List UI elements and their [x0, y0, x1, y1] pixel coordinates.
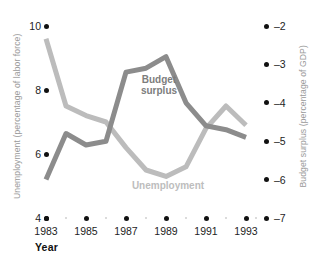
- y-axis-right-tick-label: –3: [274, 59, 296, 70]
- x-axis-tick-dot: [244, 216, 249, 221]
- x-axis-tick-label: 1983: [26, 226, 66, 237]
- series-annotation-unemployment: Unemployment: [128, 180, 208, 191]
- series-line-unemployment: [46, 39, 246, 177]
- x-axis-caption: Year: [35, 241, 58, 253]
- y-axis-right-tick-label: –6: [274, 175, 296, 186]
- y-axis-right-tick-label: –5: [274, 136, 296, 147]
- x-axis-tick-dot: [204, 216, 209, 221]
- y-axis-left-tick-dot: [44, 88, 49, 93]
- y-axis-left-tick-dot: [44, 152, 49, 157]
- x-axis-tick-label: 1985: [66, 226, 106, 237]
- y-axis-right-tick-dot: [264, 100, 269, 105]
- x-axis-tick-label: 1989: [146, 226, 186, 237]
- y-axis-left-tick-label: 8: [23, 85, 41, 96]
- y-axis-right-tick-label: –7: [274, 213, 296, 224]
- y-axis-right-tick-dot: [264, 139, 269, 144]
- series-annotation-budget-surplus: Budget surplus: [131, 74, 187, 96]
- x-axis-tick-label: 1991: [186, 226, 226, 237]
- x-axis-tick-dot: [44, 216, 49, 221]
- x-axis-tick-label: 1993: [226, 226, 266, 237]
- x-axis-tick-label: 1987: [106, 226, 146, 237]
- y-axis-right-tick-dot: [264, 62, 269, 67]
- y-axis-right-tick-label: –4: [274, 98, 296, 109]
- budget-label-line-1: Budget: [142, 74, 176, 85]
- budget-label-line-2: surplus: [141, 85, 177, 96]
- y-axis-right-tick-dot: [264, 24, 269, 29]
- y-axis-left-tick-label: 4: [23, 213, 41, 224]
- y-axis-left-tick-label: 6: [23, 149, 41, 160]
- x-axis-tick-dot: [124, 216, 129, 221]
- x-axis-tick-dot: [84, 216, 89, 221]
- y-axis-right-tick-dot: [264, 216, 269, 221]
- y-axis-left-tick-label: 10: [23, 21, 41, 32]
- x-axis-tick-dot: [164, 216, 169, 221]
- y-axis-right-tick-dot: [264, 177, 269, 182]
- y-axis-right-tick-label: –2: [274, 21, 296, 32]
- chart-container: Unemployment (percentage of labor force)…: [0, 0, 318, 268]
- y-axis-left-tick-dot: [44, 24, 49, 29]
